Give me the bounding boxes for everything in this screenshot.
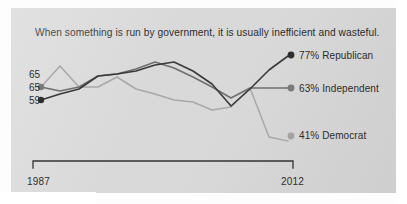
- x-axis-label-end: 2012: [281, 176, 304, 187]
- series-end-label-democrat: 41% Democrat: [299, 130, 366, 141]
- start-value-label-independent-upper: 65: [22, 69, 40, 80]
- end-dot-republican: [288, 52, 295, 59]
- line-plot: [0, 0, 407, 204]
- end-dot-independent: [288, 85, 295, 92]
- series-end-label-republican: 77% Republican: [299, 50, 373, 61]
- end-dot-democrat: [288, 133, 295, 140]
- start-value-label-independent: 65: [22, 82, 40, 93]
- series-line-democrat: [41, 66, 288, 141]
- chart-figure: When something is run by government, it …: [0, 0, 407, 204]
- series-line-independent: [41, 62, 288, 98]
- series-line-republican: [41, 56, 288, 106]
- x-axis-label-start: 1987: [27, 176, 50, 187]
- start-value-label-republican: 59: [22, 95, 40, 106]
- series-end-label-independent: 63% Independent: [299, 83, 379, 94]
- x-axis-bracket: [33, 161, 293, 168]
